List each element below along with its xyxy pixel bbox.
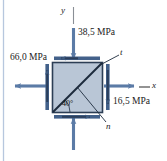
top-stress-label: 38,5 MPa <box>78 28 115 38</box>
x-axis-label: x <box>152 81 156 90</box>
y-axis-label: y <box>61 6 65 15</box>
t-plane-label: t <box>120 48 123 57</box>
tangential-direction-ray <box>100 55 119 65</box>
diagram-canvas <box>0 0 167 161</box>
angle-label: 40° <box>62 100 73 108</box>
left-stress-label: 66,0 MPa <box>10 53 47 63</box>
stress-element-figure: y x 38,5 MPa 66,0 MPa 16,5 MPa t n 40° <box>0 0 167 161</box>
right-stress-label: 16,5 MPa <box>113 97 150 107</box>
n-plane-label: n <box>106 122 111 131</box>
